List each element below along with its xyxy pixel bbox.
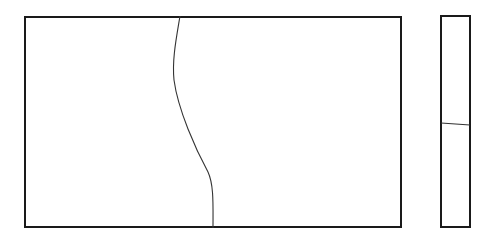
divider-lines (0, 0, 488, 241)
side-divider-line (441, 123, 470, 125)
main-divider-curve (173, 16, 213, 228)
